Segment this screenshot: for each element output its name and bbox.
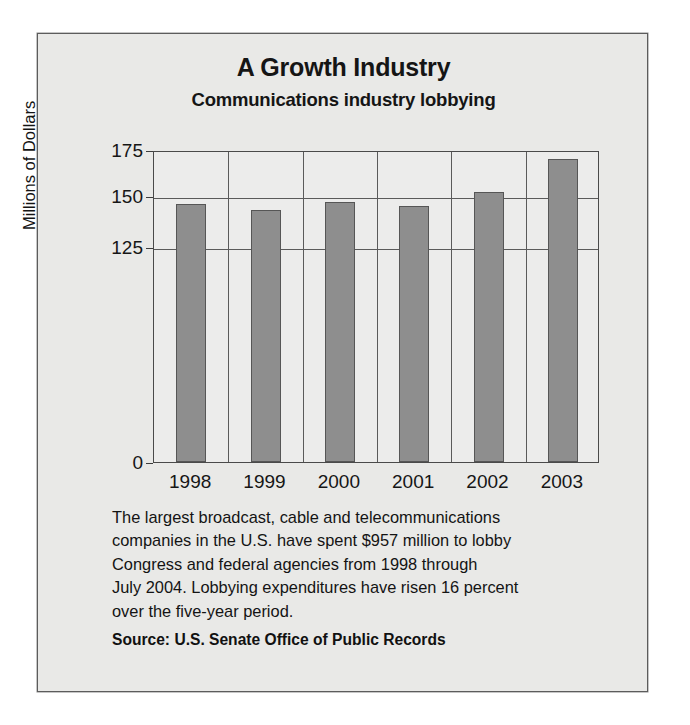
caption-line-3: Congress and federal agencies from 1998 … [112, 555, 477, 573]
x-tick-label-1999: 1999 [228, 471, 302, 493]
bar-2000 [325, 202, 355, 462]
y-tick-label-175: 175 [81, 140, 143, 162]
y-tick-label-125: 125 [81, 237, 143, 259]
gridline-150 [154, 198, 598, 199]
category-separator-3 [451, 152, 452, 462]
category-separator-2 [377, 152, 378, 462]
category-separator-0 [228, 152, 229, 462]
caption-line-2: companies in the U.S. have spent $957 mi… [112, 531, 511, 549]
y-tick-mark-150 [146, 197, 153, 198]
source-line: Source: U.S. Senate Office of Public Rec… [112, 631, 632, 649]
category-separator-4 [526, 152, 527, 462]
bar-2003 [548, 159, 578, 462]
y-tick-label-0: 0 [81, 452, 143, 474]
bar-2001 [399, 206, 429, 462]
x-tick-label-2003: 2003 [525, 471, 599, 493]
bar-1999 [251, 210, 281, 462]
x-tick-label-2002: 2002 [451, 471, 525, 493]
plot-area [153, 151, 599, 463]
x-tick-label-2000: 2000 [302, 471, 376, 493]
chart-title: A Growth Industry [38, 53, 649, 82]
caption-text: The largest broadcast, cable and telecom… [112, 506, 612, 623]
bar-1998 [176, 204, 206, 462]
y-tick-label-150: 150 [81, 186, 143, 208]
gridline-125 [154, 249, 598, 250]
y-tick-mark-125 [146, 248, 153, 249]
y-tick-mark-175 [146, 151, 153, 152]
y-tick-mark-0 [146, 463, 153, 464]
y-axis-title: Millions of Dollars [20, 101, 39, 230]
bar-2002 [474, 192, 504, 462]
x-tick-label-1998: 1998 [153, 471, 227, 493]
chart-subtitle: Communications industry lobbying [38, 89, 649, 111]
category-separator-1 [303, 152, 304, 462]
caption-line-4: July 2004. Lobbying expenditures have ri… [112, 578, 518, 596]
figure-panel: A Growth Industry Communications industr… [37, 33, 648, 692]
caption-line-1: The largest broadcast, cable and telecom… [112, 508, 500, 526]
x-tick-label-2001: 2001 [376, 471, 450, 493]
caption-line-5: over the five-year period. [112, 602, 293, 620]
